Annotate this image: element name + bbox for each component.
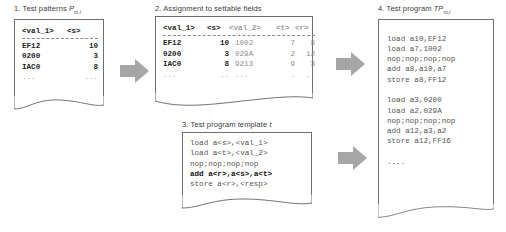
column-header-val1: <val_1> [163,23,207,34]
column-header-s: <s> [67,26,98,37]
arrow-right-icon [120,58,150,84]
cell-val2: 9213 [229,59,276,69]
cell-t: 2 [276,49,295,59]
panel-assignment: 2. Assignment to settable fields <val_1>… [155,4,313,94]
table-header-row: <val_1> <s> [22,26,98,37]
table-row: IAC0 8 9213 9 3 [163,59,315,69]
cell-s: 10 [207,38,229,48]
code-line-ellipsis: .... [387,157,487,167]
arrow-right-icon [336,51,366,77]
cell-ellipsis-s: .. [207,70,229,80]
panel-test-patterns-title-text: Test patterns [23,4,67,13]
cell-s: 3 [67,51,98,61]
code-line-highlighted: add a<r>,a<s>,a<t> [190,169,305,179]
cell-ellipsis-val1: ... [163,70,207,80]
panel-test-patterns-title: 1. Test patterns Pm,i [14,4,104,17]
panel-test-program-title-text: Test program [387,4,432,13]
cell-s: 8 [207,59,229,69]
assignment-sheet: <val_1> <s> <val_2> <t> <r> EF12 10 1002… [155,16,313,94]
arrow-right-icon [338,145,368,171]
arrow-patterns-to-assignment [120,58,150,88]
cell-r: 8 [295,38,315,48]
code-line: add a12,a3,a2 [387,126,487,136]
panel-test-patterns-subscript: m,i [74,9,81,15]
table-header-row: <val_1> <s> <val_2> <t> <r> [163,23,315,34]
cell-val1: 0200 [22,51,67,61]
panel-template-symbol: t [269,120,271,129]
test-program-sheet: load a10,EF12 load a7,1002 nop;nop;nop;n… [378,19,494,205]
column-header-s: <s> [207,23,229,34]
cell-val1: 0200 [163,49,207,59]
table-row: EF12 10 1002 7 8 [163,38,315,48]
panel-test-program-title: 4. Test program TPm,i [378,4,494,17]
cell-val1: EF12 [163,38,207,48]
panel-test-program-step: 4. [378,4,384,13]
panel-template-step: 3. [182,120,188,129]
template-code: load a<s>,<val_1> load a<t>,<val_2> nop;… [190,138,305,189]
panel-test-patterns-step: 1. [14,4,20,13]
code-line: add a8,a10,a7 [387,64,487,74]
code-line-blank [387,147,487,157]
cell-s: 8 [67,62,98,72]
test-patterns-sheet: <val_1> <s> EF12 10 0200 3 IAC0 8 ... ..… [14,19,104,97]
code-line: nop;nop;nop;nop [387,116,487,126]
code-line: store a12,FF16 [387,136,487,146]
code-line: load a3,0200 [387,95,487,105]
panel-assignment-title-text: Assignment to settable fields [163,4,261,13]
cell-val1: EF12 [22,41,67,51]
code-line: store a<r>,<resp> [190,179,305,189]
arrow-template-to-program [338,145,368,175]
table-row: 0200 3 029A 2 12 [163,49,315,59]
table-row: IAC0 8 [22,62,98,72]
code-line: load a<t>,<val_2> [190,148,305,158]
panel-template: 3. Test program template t load a<s>,<va… [182,120,312,196]
cell-t: 9 [276,59,295,69]
arrow-assignment-to-program [336,51,366,81]
panel-test-program: 4. Test program TPm,i load a10,EF12 load… [378,4,494,205]
column-header-val2: <val_2> [229,23,276,34]
code-line: nop;nop;nop;nop [387,54,487,64]
cell-ellipsis-val1: ... [22,72,67,82]
torn-edge [378,204,494,218]
table-row: EF12 10 [22,41,98,51]
torn-edge [155,93,313,107]
torn-edge [182,195,312,209]
panel-test-program-subscript: m,i [443,9,450,15]
panel-test-patterns: 1. Test patterns Pm,i <val_1> <s> EF12 1… [14,4,104,97]
cell-s: 3 [207,49,229,59]
column-header-r: <r> [295,23,315,34]
panel-assignment-title: 2. Assignment to settable fields [155,4,313,14]
cell-ellipsis-s: ... [67,72,98,82]
template-sheet: load a<s>,<val_1> load a<t>,<val_2> nop;… [182,132,312,196]
cell-val2: 029A [229,49,276,59]
test-program-code: load a10,EF12 load a7,1002 nop;nop;nop;n… [387,34,487,168]
cell-ellipsis-r: .. [295,70,315,80]
table-ellipsis-row: ... ... [22,72,98,82]
panel-test-program-symbol: TP [434,4,444,13]
code-line: load a<s>,<val_1> [190,138,305,148]
cell-r: 3 [295,59,315,69]
code-line: load a7,1002 [387,44,487,54]
code-line-blank [387,85,487,95]
table-row: 0200 3 [22,51,98,61]
cell-val1: IAC0 [163,59,207,69]
code-line: nop;nop;nop;nop [190,159,305,169]
cell-ellipsis-t: . [276,70,295,80]
torn-edge [14,96,104,110]
cell-t: 7 [276,38,295,48]
cell-s: 10 [67,41,98,51]
cell-val1: IAC0 [22,62,67,72]
test-patterns-table: <val_1> <s> EF12 10 0200 3 IAC0 8 ... ..… [22,26,98,83]
assignment-table: <val_1> <s> <val_2> <t> <r> EF12 10 1002… [163,23,315,80]
code-line: load a10,EF12 [387,34,487,44]
code-line: store a8,FF12 [387,75,487,85]
column-header-t: <t> [276,23,295,34]
panel-assignment-step: 2. [155,4,161,13]
panel-template-title: 3. Test program template t [182,120,312,130]
table-ellipsis-row: ... .. ... . .. [163,70,315,80]
cell-val2: 1002 [229,38,276,48]
code-line: load a2,029A [387,106,487,116]
cell-ellipsis-val2: ... [229,70,276,80]
column-header-val1: <val_1> [22,26,67,37]
panel-template-title-text: Test program template [191,120,268,129]
